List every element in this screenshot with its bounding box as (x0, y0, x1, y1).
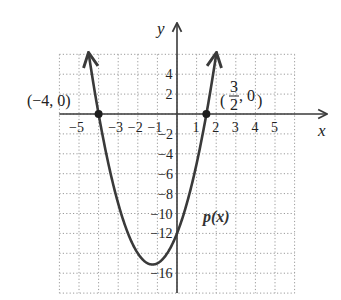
point-label-left: (−4, 0) (27, 92, 71, 110)
y-tick-label: 4 (166, 67, 173, 82)
x-tick-label: 5 (271, 120, 278, 135)
y-tick-label: −10 (151, 207, 173, 222)
function-label: p(x) (201, 208, 230, 226)
annotations: (−4, 0)(32, 0)p(x) (27, 78, 262, 226)
point-label-right-denominator: 2 (230, 96, 238, 113)
point-label-right-paren-open: ( (220, 92, 225, 110)
root-point-left (95, 110, 103, 118)
axes: xy (59, 19, 326, 293)
x-tick-label: −3 (108, 120, 123, 135)
y-tick-label: 2 (166, 87, 173, 102)
parabola-chart: xy −5−3−2−11234542−2−4−6−8−10−12−16 (−4,… (0, 0, 341, 300)
point-label-right-paren-close: ) (257, 92, 262, 110)
point-label-right-numerator: 3 (230, 78, 238, 95)
y-tick-label: −16 (151, 266, 173, 281)
x-tick-label: −2 (128, 120, 143, 135)
y-tick-label: −2 (158, 127, 173, 142)
x-tick-label: −5 (69, 120, 84, 135)
y-axis-label: y (155, 19, 165, 38)
x-tick-label: 4 (251, 120, 258, 135)
x-tick-label: 2 (212, 120, 219, 135)
x-tick-label: 1 (193, 120, 200, 135)
y-tick-label: −12 (151, 226, 173, 241)
y-tick-label: −6 (158, 167, 173, 182)
x-axis-label: x (317, 121, 326, 140)
point-label-right-rest: , 0 (239, 87, 255, 104)
y-tick-label: −4 (158, 147, 173, 162)
y-tick-label: −8 (158, 187, 173, 202)
root-point-right (202, 110, 210, 118)
x-tick-label: 3 (232, 120, 239, 135)
